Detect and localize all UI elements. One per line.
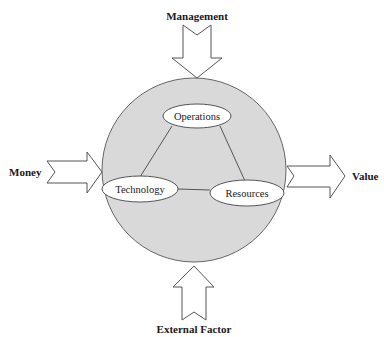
management-label: Management xyxy=(166,10,228,22)
management-arrow-icon xyxy=(172,25,222,78)
node-technology: Technology xyxy=(102,176,178,202)
node-operations: Operations xyxy=(163,104,231,128)
node-operations-label: Operations xyxy=(174,111,220,122)
money-label: Money xyxy=(9,166,42,178)
value-label: Value xyxy=(352,170,379,182)
node-technology-label: Technology xyxy=(115,184,165,195)
node-resources: Resources xyxy=(210,180,284,206)
external-factor-label: External Factor xyxy=(157,323,232,335)
node-resources-label: Resources xyxy=(225,188,268,199)
money-arrow-icon xyxy=(47,152,102,193)
external-factor-arrow-icon xyxy=(173,266,214,320)
system-diagram: Operations Technology Resources Manageme… xyxy=(0,0,384,337)
value-arrow-icon xyxy=(287,155,345,198)
